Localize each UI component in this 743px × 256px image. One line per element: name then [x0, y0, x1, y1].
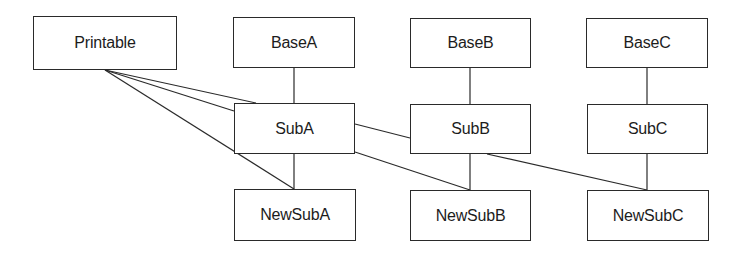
- node-new-sub-c: NewSubC: [587, 190, 709, 241]
- edge-subA-to-subB: [355, 124, 410, 138]
- node-label: BaseB: [447, 34, 493, 52]
- edge-subA-to-newSubB: [355, 152, 470, 190]
- node-label: NewSubB: [436, 207, 506, 225]
- node-label: NewSubC: [613, 207, 684, 225]
- node-label: BaseC: [623, 34, 670, 52]
- edge-subB-to-newSubC: [487, 154, 647, 190]
- node-base-b: BaseB: [410, 18, 531, 68]
- node-label: SubB: [451, 120, 489, 138]
- node-label: SubA: [275, 120, 313, 138]
- node-new-sub-b: NewSubB: [410, 190, 531, 241]
- node-base-c: BaseC: [586, 18, 708, 68]
- class-hierarchy-diagram: Printable BaseA BaseB BaseC SubA SubB Su…: [0, 0, 743, 256]
- node-sub-b: SubB: [410, 104, 531, 154]
- node-printable: Printable: [33, 16, 177, 70]
- node-sub-a: SubA: [234, 103, 355, 154]
- node-sub-c: SubC: [587, 104, 708, 154]
- node-label: NewSubA: [260, 206, 330, 224]
- node-base-a: BaseA: [233, 17, 355, 68]
- node-label: BaseA: [271, 34, 317, 52]
- node-label: Printable: [74, 34, 135, 52]
- node-label: SubC: [628, 120, 667, 138]
- edge-printable-to-subA: [105, 70, 234, 111]
- node-new-sub-a: NewSubA: [234, 189, 356, 241]
- edge-printable-to-subA: [105, 70, 256, 103]
